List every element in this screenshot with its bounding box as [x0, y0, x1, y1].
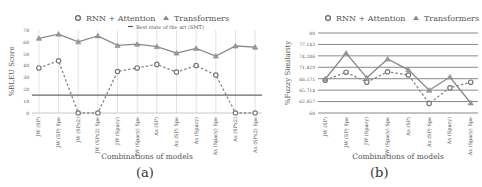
legend-transformers-icon	[163, 16, 169, 21]
x-tick-label: JW (SPx2) Spe	[94, 117, 101, 155]
circle-marker	[233, 111, 237, 115]
x-tick-label: JW (Spacy)	[363, 117, 370, 146]
chart-b-svg: RNN + AttentionTransformers6062.85765.71…	[270, 0, 482, 160]
circle-marker	[253, 111, 257, 115]
circle-marker	[174, 70, 178, 74]
legend-rnn-label: RNN + Attention	[86, 14, 156, 23]
series-line	[39, 34, 255, 56]
x-tick-label: Ax (Spacy) Spe	[212, 117, 219, 156]
x-tick-label: Ax (Spacy)	[446, 117, 453, 145]
y-tick-label: 71.429	[299, 65, 315, 70]
circle-marker	[427, 101, 431, 105]
x-axis-label: Combinations of models	[101, 152, 193, 160]
circle-marker	[344, 70, 348, 74]
x-tick-label: Ax (Spacy) Spe	[467, 117, 474, 156]
legend-transformers-label: Transformers	[174, 14, 229, 23]
x-tick-label: Ax (SP) Spe	[173, 117, 180, 148]
x-tick-label: JW (SP)	[322, 117, 329, 137]
triangle-marker	[194, 46, 199, 51]
y-tick-label: 74.286	[299, 54, 315, 59]
circle-marker	[469, 80, 473, 84]
legend-rnn-icon	[326, 16, 331, 21]
caption-b: (b)	[370, 165, 388, 180]
circle-marker	[365, 80, 369, 84]
triangle-marker	[385, 56, 390, 61]
circle-marker	[96, 111, 100, 115]
y-tick-label: 77.143	[299, 42, 315, 47]
legend-smt-label: Best state of the art (SMT)	[136, 24, 204, 30]
y-tick-label: 50	[23, 52, 29, 57]
y-tick-label: 40	[23, 63, 29, 68]
y-tick-label: 65.714	[299, 88, 315, 93]
chart-a: RNN + AttentionTransformersBest state of…	[0, 0, 260, 160]
circle-marker	[385, 70, 389, 74]
circle-marker	[194, 63, 198, 67]
y-axis-label: %Fuzzy Similarity	[284, 41, 292, 105]
y-tick-label: 68.571	[299, 77, 315, 82]
y-tick-label: 70	[23, 28, 29, 33]
circle-marker	[76, 111, 80, 115]
y-tick-label: 10	[23, 99, 29, 104]
circle-marker	[56, 59, 60, 63]
x-tick-label: JW (SPx2)	[75, 117, 82, 143]
circle-marker	[214, 73, 218, 77]
triangle-marker	[343, 50, 348, 55]
y-tick-label: 62.857	[299, 99, 315, 104]
y-axis-label: %BLEU Score	[8, 46, 16, 96]
circle-marker	[135, 66, 139, 70]
y-tick-label: 60	[23, 40, 29, 45]
x-tick-label: JW (Spacy)	[114, 117, 121, 146]
y-tick-label: 30	[23, 75, 29, 80]
legend-transformers-icon	[413, 16, 419, 21]
x-tick-label: Ax (Spacy)	[193, 117, 200, 145]
x-tick-label: Ax (SP)	[405, 117, 411, 137]
x-tick-label: Ax (SP) Spe	[426, 117, 433, 148]
circle-marker	[37, 66, 41, 70]
x-tick-label: JW (SP) Spe	[55, 117, 62, 149]
x-tick-label: Ax (SP)	[153, 117, 159, 137]
circle-marker	[406, 73, 410, 77]
y-tick-label: 80	[309, 31, 315, 36]
legend-rnn-label: RNN + Attention	[336, 14, 406, 23]
x-tick-label: Ax (SPx2)	[232, 117, 238, 143]
x-tick-label: JW (SP)	[35, 117, 42, 137]
legend-rnn-icon	[76, 16, 81, 21]
legend-transformers-label: Transformers	[424, 14, 479, 23]
caption-a: (a)	[136, 165, 154, 180]
x-tick-label: JW (SP) Spe	[343, 117, 350, 149]
y-tick-label: 0	[26, 111, 29, 116]
circle-marker	[115, 69, 119, 73]
circle-marker	[155, 62, 159, 66]
circle-marker	[448, 86, 452, 90]
triangle-marker	[56, 32, 61, 37]
y-tick-label: 60	[309, 111, 315, 116]
x-axis-label: Combinations of models	[352, 152, 444, 160]
x-tick-label: Ax (SPx2) Spe	[252, 117, 259, 154]
chart-a-svg: RNN + AttentionTransformersBest state of…	[0, 0, 270, 160]
triangle-marker	[95, 33, 100, 38]
triangle-marker	[447, 74, 452, 79]
y-tick-label: 20	[23, 87, 29, 92]
series-line	[39, 61, 255, 113]
chart-b: RNN + AttentionTransformers6062.85765.71…	[270, 0, 482, 160]
